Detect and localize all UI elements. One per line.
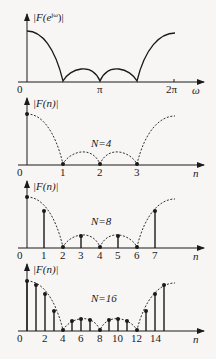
sample-points xyxy=(25,279,166,332)
panel-n16: |F(n)| xyxy=(17,263,204,345)
tick-label: 4 xyxy=(60,332,66,344)
tick-label: 3 xyxy=(78,249,84,261)
x-axis-label: n xyxy=(193,333,199,345)
tick-label: 6 xyxy=(78,332,84,344)
tick-label: 8 xyxy=(97,332,103,344)
tick-label-0: 0 xyxy=(17,83,23,95)
tick-label: 10 xyxy=(112,332,124,344)
tick-label: 0 xyxy=(17,249,23,261)
tick-label: 3 xyxy=(134,166,140,178)
sample-point xyxy=(153,209,157,213)
series-label: N=4 xyxy=(90,137,112,149)
tick-label: 1 xyxy=(41,249,47,261)
x-axis-label: n xyxy=(193,250,199,262)
series-label: N=16 xyxy=(90,292,117,304)
panel-continuous-spectrum: |F(ejω)| 0 π 2π ω xyxy=(17,11,204,96)
x-axis-label-omega: ω xyxy=(192,84,200,96)
tick-label: 12 xyxy=(131,332,142,344)
sample-point xyxy=(25,195,29,199)
panel-n8: |F(n)| N=8 0 1 2 3 4 5 6 7 n xyxy=(17,180,204,262)
tick-label: 1 xyxy=(60,166,66,178)
tick-label-2pi: 2π xyxy=(166,83,178,95)
y-axis-label: |F(n)| xyxy=(33,97,59,110)
tick-label: 14 xyxy=(150,332,162,344)
y-axis-label: |F(ejω)| xyxy=(33,11,64,24)
panel-n4: |F(n)| N=4 0 1 2 3 n xyxy=(17,97,204,179)
tick-label: 7 xyxy=(152,249,158,261)
tick-label: 4 xyxy=(97,249,103,261)
tick-label: 2 xyxy=(97,166,103,178)
tick-label: 5 xyxy=(115,249,121,261)
sample-point xyxy=(116,234,120,238)
spectrum-figure: |F(ejω)| 0 π 2π ω |F(n)| N=4 0 1 2 3 n |… xyxy=(0,0,216,359)
spectrum-curve xyxy=(27,31,175,81)
tick-label: 2 xyxy=(42,332,48,344)
y-axis-label: |F(n)| xyxy=(33,263,59,276)
envelope-curve xyxy=(27,281,175,330)
tick-label: 2 xyxy=(60,249,66,261)
y-axis-label: |F(n)| xyxy=(33,180,59,193)
series-label: N=8 xyxy=(90,215,112,227)
tick-label: 0 xyxy=(17,332,23,344)
tick-label-pi: π xyxy=(97,83,103,95)
tick-label: 0 xyxy=(17,166,23,178)
x-axis-label: n xyxy=(193,167,199,179)
sample-point xyxy=(42,209,46,213)
sample-point xyxy=(79,234,83,238)
sample-point xyxy=(25,112,29,116)
tick-label: 6 xyxy=(134,249,140,261)
